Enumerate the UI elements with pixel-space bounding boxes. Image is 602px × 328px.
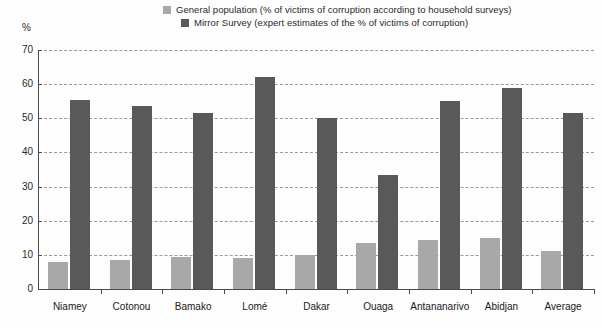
bar-general-population bbox=[356, 243, 376, 289]
bar-mirror-survey bbox=[132, 106, 152, 289]
x-tick-mark bbox=[347, 289, 348, 294]
x-tick-mark bbox=[409, 289, 410, 294]
x-tick-mark bbox=[162, 289, 163, 294]
y-tick-label-50: 50 bbox=[0, 112, 33, 123]
bar-group bbox=[233, 50, 275, 289]
x-tick-mark bbox=[101, 289, 102, 294]
x-axis-label-antananarivo: Antananarivo bbox=[410, 301, 469, 312]
bar-mirror-survey bbox=[255, 77, 275, 289]
chart-bars bbox=[39, 50, 594, 289]
bar-group bbox=[541, 50, 583, 289]
bar-mirror-survey bbox=[70, 100, 90, 289]
x-tick-mark bbox=[224, 289, 225, 294]
y-tick-label-20: 20 bbox=[0, 215, 33, 226]
x-axis-label-dakar: Dakar bbox=[303, 301, 330, 312]
bar-group bbox=[295, 50, 337, 289]
x-axis-label-abidjan: Abidjan bbox=[485, 301, 518, 312]
x-axis-label-lom-: Lomé bbox=[242, 301, 267, 312]
bar-chart: General population (% of victims of corr… bbox=[0, 0, 602, 328]
bar-group bbox=[480, 50, 522, 289]
legend-swatch-mirror-survey bbox=[181, 19, 189, 27]
x-tick-mark bbox=[532, 289, 533, 294]
bar-mirror-survey bbox=[317, 118, 337, 289]
legend-swatch-general-population bbox=[163, 6, 171, 14]
bar-mirror-survey bbox=[502, 88, 522, 289]
legend-label-mirror-survey: Mirror Survey (expert estimates of the %… bbox=[194, 17, 468, 29]
bar-mirror-survey bbox=[193, 113, 213, 289]
bar-general-population bbox=[541, 251, 561, 289]
bar-general-population bbox=[110, 260, 130, 289]
bar-group bbox=[48, 50, 90, 289]
y-tick-mark-0 bbox=[38, 289, 42, 290]
bar-group bbox=[418, 50, 460, 289]
x-axis-line bbox=[38, 289, 595, 290]
y-tick-label-10: 10 bbox=[0, 249, 33, 260]
x-tick-mark bbox=[286, 289, 287, 294]
legend-item-general-population: General population (% of victims of corr… bbox=[0, 4, 602, 16]
x-axis-label-niamey: Niamey bbox=[53, 301, 87, 312]
x-axis-label-average: Average bbox=[545, 301, 582, 312]
x-tick-mark bbox=[471, 289, 472, 294]
x-tick-mark bbox=[594, 289, 595, 294]
bar-general-population bbox=[480, 238, 500, 289]
y-tick-label-60: 60 bbox=[0, 78, 33, 89]
bar-general-population bbox=[418, 240, 438, 290]
x-axis-label-ouaga: Ouaga bbox=[363, 301, 393, 312]
bar-mirror-survey bbox=[440, 101, 460, 289]
y-axis-unit-label: % bbox=[22, 22, 31, 33]
chart-legend: General population (% of victims of corr… bbox=[0, 4, 602, 29]
y-tick-label-0: 0 bbox=[0, 283, 33, 294]
x-axis-label-cotonou: Cotonou bbox=[113, 301, 151, 312]
x-axis-label-bamako: Bamako bbox=[175, 301, 212, 312]
legend-item-mirror-survey: Mirror Survey (expert estimates of the %… bbox=[0, 17, 602, 29]
bar-mirror-survey bbox=[378, 175, 398, 289]
bar-mirror-survey bbox=[563, 113, 583, 289]
y-tick-label-40: 40 bbox=[0, 146, 33, 157]
y-tick-label-30: 30 bbox=[0, 181, 33, 192]
bar-general-population bbox=[295, 255, 315, 289]
bar-general-population bbox=[48, 262, 68, 289]
bar-general-population bbox=[171, 257, 191, 289]
legend-label-general-population: General population (% of victims of corr… bbox=[176, 4, 512, 16]
bar-group bbox=[356, 50, 398, 289]
bar-group bbox=[110, 50, 152, 289]
bar-group bbox=[171, 50, 213, 289]
bar-general-population bbox=[233, 258, 253, 289]
y-tick-label-70: 70 bbox=[0, 44, 33, 55]
